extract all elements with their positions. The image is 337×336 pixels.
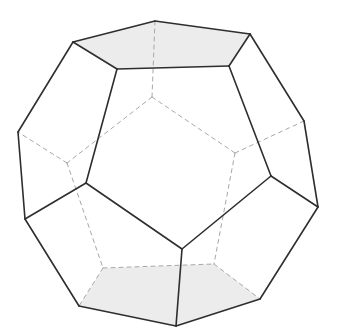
dodecahedron-diagram: Dodecahedron [0,0,337,336]
visible-edge [25,219,79,306]
shaded-face [73,21,250,69]
hidden-edge [67,97,152,163]
visible-edge [260,207,318,299]
visible-edge [25,183,86,219]
shaded-face [79,264,260,326]
hidden-edge [18,132,67,163]
visible-edge [18,42,73,132]
visible-edge [182,176,271,249]
visible-edge [250,34,304,121]
hidden-edge [235,121,304,153]
dodecahedron-wireframe [0,0,337,336]
visible-edge [304,121,318,207]
shaded-faces [73,21,260,326]
visible-edge [18,132,25,219]
visible-edge [271,176,318,207]
hidden-edge [67,163,103,268]
visible-edge [229,66,271,176]
visible-edge [86,69,117,183]
hidden-edge [152,97,235,153]
visible-edge [86,183,182,249]
